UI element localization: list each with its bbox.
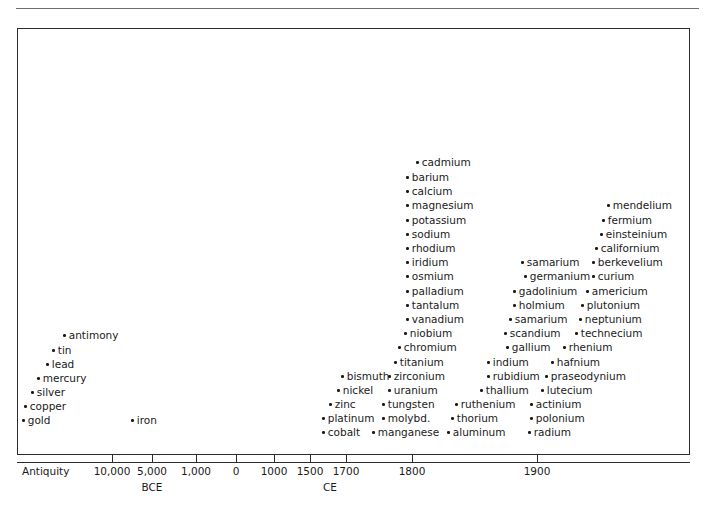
x-axis-tick-label: 5,000 <box>137 465 167 477</box>
element-label: aluminum <box>453 426 506 438</box>
element-label: praseodynium <box>551 370 626 382</box>
element-point-praseodynium: praseodynium <box>545 371 626 382</box>
element-point-iron: iron <box>131 415 157 426</box>
element-point-sodium: sodium <box>406 229 450 240</box>
element-point-tungsten: tungsten <box>382 399 435 410</box>
element-label: calcium <box>412 185 453 197</box>
point-marker-icon <box>607 204 610 207</box>
point-marker-icon <box>322 431 325 434</box>
point-marker-icon <box>322 417 325 420</box>
element-label: samarium <box>527 256 580 268</box>
element-label: mercury <box>43 372 87 384</box>
element-label: gadolinium <box>519 285 577 297</box>
x-axis-tick-1000 <box>274 455 275 462</box>
element-point-rhodium: rhodium <box>406 243 455 254</box>
element-label: polonium <box>536 412 585 424</box>
element-label: silver <box>37 386 65 398</box>
element-point-potassium: potassium <box>406 215 466 226</box>
point-marker-icon <box>455 403 458 406</box>
point-marker-icon <box>524 275 527 278</box>
element-label: potassium <box>412 214 466 226</box>
element-point-platinum: platinum <box>322 413 374 424</box>
point-marker-icon <box>416 161 419 164</box>
point-marker-icon <box>509 318 512 321</box>
point-marker-icon <box>22 419 25 422</box>
point-marker-icon <box>551 361 554 364</box>
element-point-antiquity-cluster-gold: gold <box>22 415 50 426</box>
element-point-californium: californium <box>595 243 660 254</box>
point-marker-icon <box>24 405 27 408</box>
element-point-ruthenium: ruthenium <box>455 399 515 410</box>
x-axis-tick-label: 1700 <box>333 465 360 477</box>
element-point-osmium: osmium <box>406 271 454 282</box>
point-marker-icon <box>513 290 516 293</box>
point-marker-icon <box>506 346 509 349</box>
x-axis-era-label-bce: BCE <box>142 481 163 493</box>
point-marker-icon <box>388 389 391 392</box>
element-label: iridium <box>412 256 449 268</box>
element-label: tungsten <box>388 398 435 410</box>
point-marker-icon <box>337 389 340 392</box>
x-axis-tick-1700 <box>346 455 347 462</box>
element-point-molybdenum: molybd. <box>382 413 430 424</box>
element-point-gallium: gallium <box>506 342 551 353</box>
element-label: thallium <box>486 384 529 396</box>
element-point-antiquity-cluster-mercury: mercury <box>37 373 87 384</box>
element-point-thorium: thorium <box>451 413 498 424</box>
point-marker-icon <box>394 361 397 364</box>
element-label: plutonium <box>587 299 640 311</box>
element-label: rhenium <box>569 341 613 353</box>
element-label: magnesium <box>412 199 474 211</box>
element-label: curium <box>598 270 635 282</box>
element-label: cadmium <box>422 156 471 168</box>
element-point-antiquity-cluster-silver: silver <box>31 387 65 398</box>
element-point-tantalum: tantalum <box>406 300 459 311</box>
element-point-aluminum: aluminum <box>447 427 505 438</box>
element-label: berkevelium <box>598 256 663 268</box>
element-label: fermium <box>608 214 652 226</box>
element-point-samarium-2: samarium <box>509 314 567 325</box>
point-marker-icon <box>600 233 603 236</box>
point-marker-icon <box>406 304 409 307</box>
element-point-samarium-1: samarium <box>521 257 579 268</box>
point-marker-icon <box>530 417 533 420</box>
element-point-lutecium: lutecium <box>541 385 593 396</box>
point-marker-icon <box>398 346 401 349</box>
point-marker-icon <box>563 346 566 349</box>
x-axis-tick-label: 10,000 <box>94 465 131 477</box>
element-label: bismuth <box>347 370 390 382</box>
point-marker-icon <box>341 375 344 378</box>
element-point-cadmium: cadmium <box>416 157 471 168</box>
element-point-chromium: chromium <box>398 342 457 353</box>
point-marker-icon <box>579 318 582 321</box>
element-point-niobium: niobium <box>404 328 452 339</box>
element-point-antiquity-cluster-lead: lead <box>46 359 74 370</box>
point-marker-icon <box>382 417 385 420</box>
element-label: zirconium <box>394 370 445 382</box>
point-marker-icon <box>382 403 385 406</box>
point-marker-icon <box>528 431 531 434</box>
point-marker-icon <box>63 334 66 337</box>
element-point-gadolinium: gadolinium <box>513 286 577 297</box>
element-point-holmium: holmium <box>513 300 565 311</box>
element-label: mendelium <box>613 199 672 211</box>
element-point-neptunium: neptunium <box>579 314 642 325</box>
point-marker-icon <box>581 304 584 307</box>
point-marker-icon <box>404 332 407 335</box>
element-label: platinum <box>328 412 375 424</box>
element-point-barium: barium <box>406 172 449 183</box>
element-label: rhodium <box>412 242 456 254</box>
element-point-nickel: nickel <box>337 385 373 396</box>
element-point-manganese: manganese <box>372 427 439 438</box>
element-label: barium <box>412 171 449 183</box>
element-label: osmium <box>412 270 454 282</box>
element-label: tin <box>58 344 72 356</box>
element-label: chromium <box>404 341 457 353</box>
point-marker-icon <box>480 389 483 392</box>
element-label: iron <box>137 414 157 426</box>
element-label: palladium <box>412 285 464 297</box>
element-label: molybd. <box>388 412 430 424</box>
element-point-bismuth: bismuth <box>341 371 390 382</box>
element-label: actinium <box>536 398 582 410</box>
x-axis-tick-label: 1900 <box>524 465 551 477</box>
